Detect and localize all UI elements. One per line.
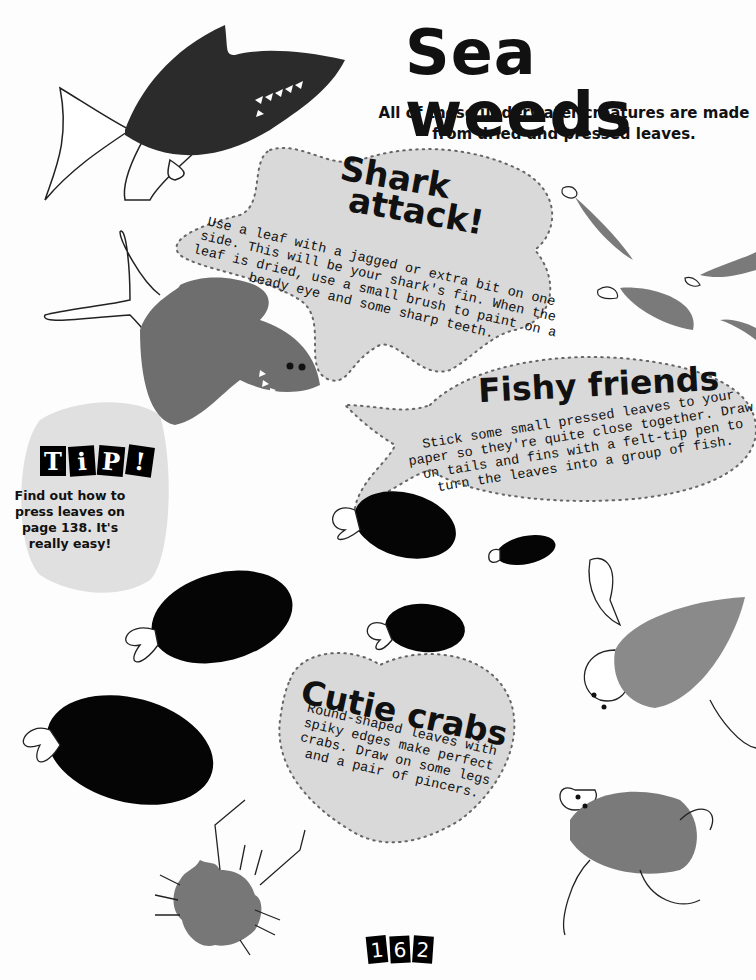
tip-letter: P — [97, 445, 126, 477]
small-leaf-fish-group — [562, 187, 756, 340]
page-number-digit: 6 — [389, 935, 410, 963]
tip-text: Find out how to press leaves on page 138… — [10, 488, 130, 552]
page-number: 1 6 2 — [367, 936, 433, 963]
tip-letter: i — [68, 445, 96, 477]
tip-title: T i P ! — [40, 446, 153, 476]
tip-letter: ! — [125, 444, 155, 477]
page-number-digit: 2 — [412, 935, 434, 963]
page-subtitle: All of these underwater creatures are ma… — [372, 103, 756, 145]
crab-leaf-illustration — [155, 800, 305, 955]
page-number-digit: 1 — [366, 935, 389, 964]
turtle-leaf-illustrations — [560, 558, 756, 935]
tip-letter: T — [40, 446, 66, 476]
